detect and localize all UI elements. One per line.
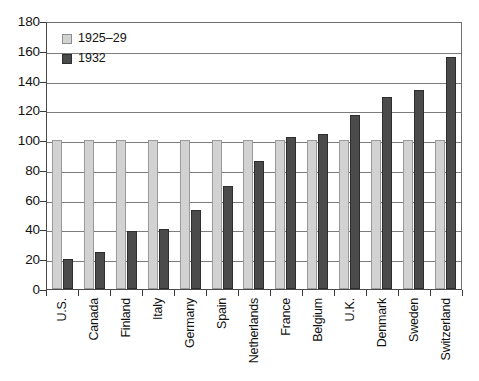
x-label-cell: Germany (174, 296, 206, 374)
bar (95, 252, 105, 289)
x-label-cell: Sweden (398, 296, 430, 374)
bar (212, 140, 222, 289)
bar (403, 140, 413, 289)
bar (159, 229, 169, 289)
y-tick-label: 20 (0, 252, 40, 268)
x-label-cell: U.S. (46, 296, 78, 374)
bar (63, 259, 73, 289)
legend-label-1925-29: 1925–29 (78, 32, 127, 45)
bar-group (270, 23, 302, 289)
bar (148, 140, 158, 289)
x-axis-category-label: Denmark (376, 298, 389, 347)
y-tick-label: 180 (0, 14, 40, 30)
bar-chart: 180160140120100806040200 U.S.CanadaFinla… (0, 0, 479, 381)
x-axis-category-label: France (280, 298, 293, 336)
bar (371, 140, 381, 289)
x-axis-category-label: Belgium (312, 298, 325, 342)
y-axis: 180160140120100806040200 (0, 14, 40, 290)
bar-group (429, 23, 461, 289)
bar (414, 90, 424, 290)
legend-item: 1925–29 (62, 30, 157, 47)
x-label-cell: Netherlands (238, 296, 270, 374)
x-label-cell: U.K. (334, 296, 366, 374)
bar (223, 186, 233, 289)
bar (350, 115, 360, 289)
x-axis-category-label: Germany (184, 298, 197, 348)
x-label-cell: Italy (142, 296, 174, 374)
x-axis-category-label: Finland (120, 298, 133, 338)
bar (286, 137, 296, 289)
x-label-cell: France (270, 296, 302, 374)
bar (52, 140, 62, 289)
x-tick-mark (462, 290, 463, 296)
bar-group (365, 23, 397, 289)
figure-caption (0, 374, 479, 381)
y-tick-label: 0 (0, 282, 40, 298)
x-label-cell: Belgium (302, 296, 334, 374)
bar (275, 140, 285, 289)
x-axis-category-label: Switzerland (440, 298, 453, 360)
bar (318, 134, 328, 289)
x-axis-category-label: U.K. (344, 298, 357, 322)
x-axis-category-label: Canada (88, 298, 101, 341)
y-tick-label: 60 (0, 193, 40, 209)
legend-label-1932: 1932 (78, 52, 106, 65)
bar-group (397, 23, 429, 289)
x-axis-category-label: Italy (152, 298, 165, 320)
x-axis-category-label: U.S. (56, 298, 69, 322)
bar (127, 231, 137, 289)
y-tick-label: 120 (0, 103, 40, 119)
bar-group (238, 23, 270, 289)
y-tick-label: 40 (0, 222, 40, 238)
bar-group (174, 23, 206, 289)
bar (382, 97, 392, 289)
bar-group (334, 23, 366, 289)
x-label-cell: Spain (206, 296, 238, 374)
bar (84, 140, 94, 289)
bar (191, 210, 201, 289)
bar (339, 140, 349, 289)
bar (254, 161, 264, 289)
legend-swatch-1925-29-icon (62, 34, 72, 44)
legend-swatch-1932-icon (62, 54, 72, 64)
legend-item: 1932 (62, 50, 157, 67)
y-tick-label: 100 (0, 133, 40, 149)
bar (180, 140, 190, 289)
bar (446, 57, 456, 289)
bar (307, 140, 317, 289)
x-label-cell: Denmark (366, 296, 398, 374)
x-axis-labels: U.S.CanadaFinlandItalyGermanySpainNether… (46, 296, 462, 374)
x-label-cell: Finland (110, 296, 142, 374)
bar-group (206, 23, 238, 289)
x-axis-category-label: Netherlands (248, 298, 261, 363)
bar (116, 140, 126, 289)
y-tick-label: 140 (0, 74, 40, 90)
x-label-cell: Canada (78, 296, 110, 374)
y-tick-label: 160 (0, 44, 40, 60)
x-axis-category-label: Sweden (408, 298, 421, 342)
bar-group (302, 23, 334, 289)
y-tick-label: 80 (0, 163, 40, 179)
bar (243, 140, 253, 289)
x-label-cell: Switzerland (430, 296, 462, 374)
x-axis-category-label: Spain (216, 298, 229, 329)
bar (435, 140, 445, 289)
legend: 1925–29 1932 (62, 30, 157, 70)
